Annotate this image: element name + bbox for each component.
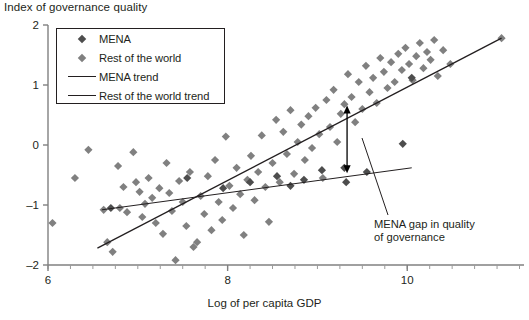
chart-figure: Index of governance quality 210–1–2 6810… [0,0,529,320]
data-point [286,106,294,114]
data-point [439,46,447,54]
leader-line [362,138,388,215]
data-point [155,184,163,192]
data-point [394,50,402,58]
data-point [369,74,377,82]
data-point [286,182,294,190]
data-point [171,256,179,264]
data-point [215,198,223,206]
y-tick-group: 210–1–2 [26,19,48,271]
data-point [207,226,215,234]
mena-gap-annotation: MENA gap in quality of governance [374,218,475,243]
data-point [175,177,183,185]
data-point [426,56,434,64]
x-tick-label: 6 [45,274,51,286]
data-point [423,48,431,56]
data-point [362,62,370,70]
data-point [301,156,309,164]
data-point [412,52,420,60]
data-point [165,189,173,197]
data-point [380,68,388,76]
data-point [387,58,395,66]
data-point [297,121,305,129]
data-point [129,148,137,156]
mena-gap-annotation-line2: of governance [374,231,475,244]
data-point [114,162,122,170]
data-point [401,44,409,52]
y-tick-label: –2 [26,259,39,271]
legend-label-mena-trend: MENA trend [99,71,158,83]
data-point [398,66,406,74]
data-point [218,216,226,224]
data-point [399,140,407,148]
y-tick-label: 0 [33,139,39,151]
legend-item-rest-of-world: Rest of the world [57,48,224,67]
x-axis-label: Log of per capita GDP [0,297,529,309]
data-point [162,159,170,167]
data-point [318,166,326,174]
data-point [391,78,399,86]
data-point [337,110,345,118]
data-point [48,219,56,227]
data-point [148,194,156,202]
data-point [383,84,391,92]
mena-gap-annotation-line1: MENA gap in quality [374,218,475,231]
data-point [222,133,230,141]
data-point [109,248,117,256]
data-point [132,178,140,186]
data-point [333,138,341,146]
data-point [322,96,330,104]
legend-key-mena-diamond-icon [65,36,99,42]
data-point [119,183,127,191]
data-point [182,222,190,230]
data-point [319,174,327,182]
legend-item-mena: MENA [57,29,224,48]
data-point [258,131,266,139]
data-point [233,164,241,172]
data-point [290,170,298,178]
data-point [430,36,438,44]
data-point [342,178,350,186]
mena-gap-leader-line [362,138,388,215]
mena-gap-arrow [343,105,350,173]
data-point [405,60,413,68]
data-point [152,219,160,227]
data-point [347,93,355,101]
data-point [497,34,505,42]
legend-label-rest-of-world: Rest of the world [99,52,181,64]
data-point [159,230,167,238]
legend-label-rest-of-world-trend: Rest of the world trend [99,90,209,102]
legend-key-rest-of-world-diamond-icon [65,55,99,61]
legend-label-mena: MENA [99,33,131,45]
data-point [419,64,427,72]
data-point [355,78,363,86]
chart-legend: MENA Rest of the world MENA trend Rest o… [56,28,225,104]
data-point [247,152,255,160]
data-point [363,168,371,176]
data-point [308,144,316,152]
y-tick-label: 2 [33,19,39,31]
data-point [279,128,287,136]
data-point [144,174,152,182]
data-point [344,70,352,78]
data-point [84,146,92,154]
data-point [272,116,280,124]
x-tick-label: 10 [401,274,414,286]
data-point [351,118,359,126]
data-point [265,218,273,226]
legend-item-mena-trend: MENA trend [57,67,224,86]
data-point [376,54,384,62]
x-tick-label: 8 [224,274,230,286]
data-point [365,88,373,96]
legend-item-rest-of-world-trend: Rest of the world trend [57,86,224,105]
data-point [211,156,219,164]
data-point [204,172,212,180]
data-point [229,204,237,212]
x-tick-group: 6810 [45,265,520,286]
data-point [123,208,131,216]
legend-key-rest-of-world-trend-line-icon [65,95,99,96]
data-point [330,86,338,94]
data-point [312,104,320,112]
data-point [268,159,276,167]
y-tick-label: 1 [33,79,39,91]
